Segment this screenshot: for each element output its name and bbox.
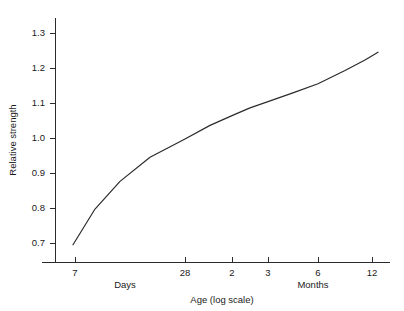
x-tick-label-1: 28 <box>180 267 191 278</box>
x-tick-label-5: 12 <box>367 267 378 278</box>
y-axis-title: Relative strength <box>7 104 18 175</box>
y-tick-label-4: 1.1 <box>32 97 45 108</box>
y-tick-label-2: 0.9 <box>32 167 45 178</box>
x-group-label-days: Days <box>114 279 136 290</box>
x-tick-label-0: 7 <box>72 267 77 278</box>
x-axis-title: Age (log scale) <box>190 294 253 305</box>
y-tick-label-3: 1.0 <box>32 132 45 143</box>
x-tick-label-4: 6 <box>315 267 320 278</box>
data-curve <box>73 52 378 245</box>
y-tick-label-5: 1.2 <box>32 62 45 73</box>
x-tick-label-2: 2 <box>229 267 234 278</box>
y-tick-label-6: 1.3 <box>32 27 45 38</box>
x-tick-label-3: 3 <box>265 267 270 278</box>
chart-figure: 0.7 0.8 0.9 1.0 1.1 1.2 1.3 7 28 2 3 6 1… <box>0 0 404 311</box>
y-tick-label-1: 0.8 <box>32 202 45 213</box>
relative-strength-line-chart: 0.7 0.8 0.9 1.0 1.1 1.2 1.3 7 28 2 3 6 1… <box>0 0 404 311</box>
x-group-label-months: Months <box>297 279 328 290</box>
y-tick-label-0: 0.7 <box>32 237 45 248</box>
